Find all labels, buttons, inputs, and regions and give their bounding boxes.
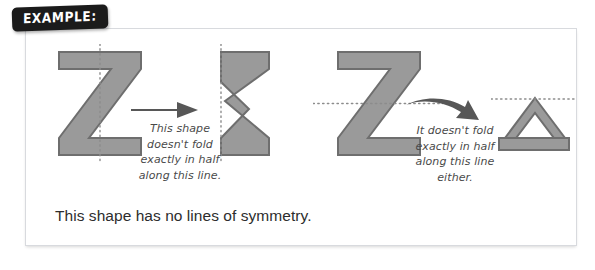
caption-vertical-fold: This shape doesn't fold exactly in half … [126, 121, 234, 183]
caption-horizontal-fold: It doesn't fold exactly in half along th… [400, 123, 510, 185]
straight-right-arrow-icon [129, 98, 201, 122]
example-badge-label: EXAMPLE: [23, 9, 97, 27]
example-badge: EXAMPLE: [12, 4, 109, 31]
conclusion-text: This shape has no lines of symmetry. [55, 206, 312, 226]
